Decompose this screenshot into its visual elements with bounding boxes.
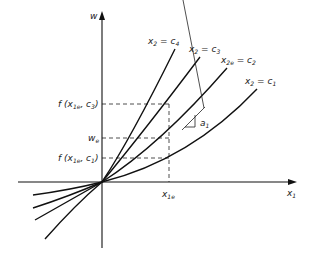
tick-f-c1: f (x1e, c1) (58, 153, 98, 164)
curves (33, 49, 257, 239)
x-axis-label: x1 (286, 188, 296, 199)
production-function-diagram: x2 = c4 x2 = c3 x2e = c2 x2 = c1 w x1 f … (0, 0, 311, 256)
tick-f-c3: f (x1e, c3) (58, 99, 98, 110)
curve-c1-label: x2 = c1 (244, 76, 276, 87)
y-axis-label: w (90, 11, 98, 21)
slope-label: a1 (200, 118, 209, 129)
tick-we: we (88, 133, 99, 144)
y-axis-arrow-icon (99, 11, 105, 20)
axes (18, 11, 297, 248)
curve-c4-label: x2 = c4 (147, 36, 179, 47)
curve-c2-label: x2e = c2 (220, 55, 256, 66)
curve-c4 (45, 49, 175, 239)
curve-c3 (35, 57, 200, 220)
tick-x1e: x1e (161, 189, 175, 200)
x-axis-arrow-icon (288, 179, 297, 185)
curve-c3-label: x2 = c3 (188, 44, 220, 55)
